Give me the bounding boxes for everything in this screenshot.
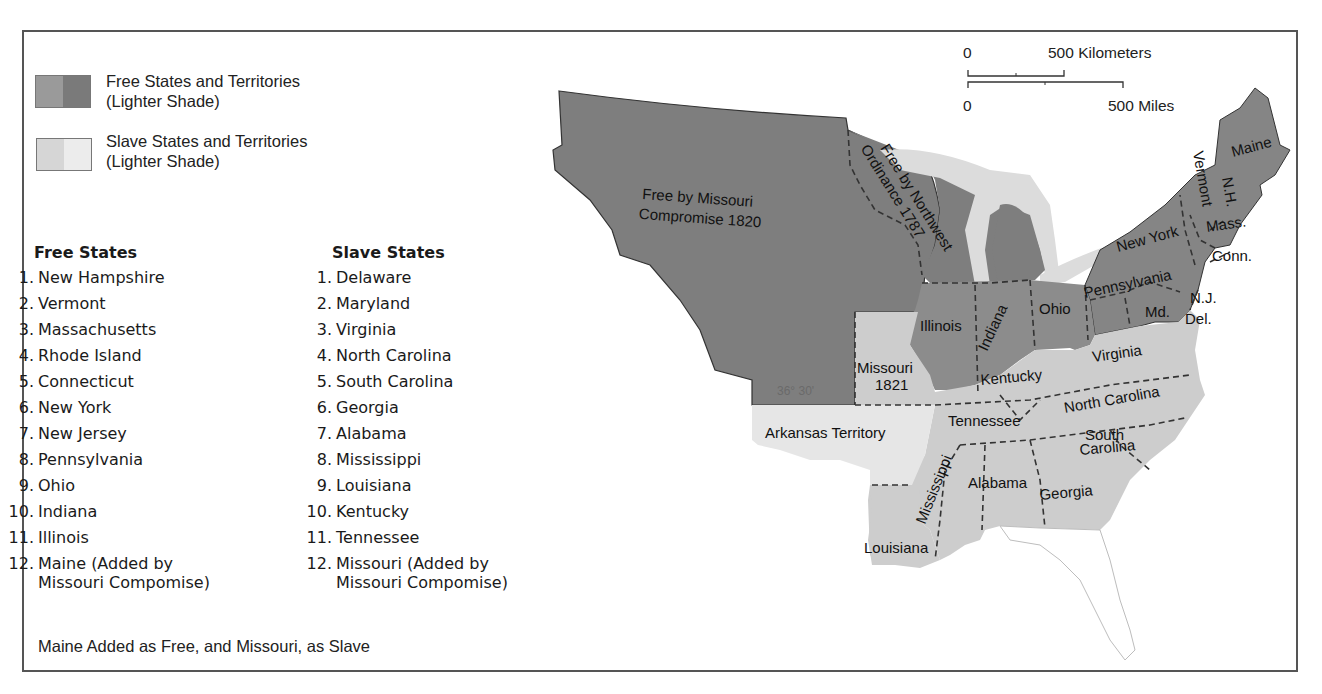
label-tennessee: Tennessee: [948, 412, 1021, 429]
label-missouri-year: 1821: [875, 376, 908, 393]
label-louisiana: Louisiana: [864, 539, 929, 556]
label-missouri: Missouri: [857, 359, 913, 376]
label-ohio: Ohio: [1039, 300, 1071, 317]
florida-outline: [1000, 526, 1135, 660]
northeast-free-states: [1085, 88, 1290, 335]
label-md: Md.: [1145, 303, 1170, 320]
label-del: Del.: [1185, 310, 1212, 327]
label-conn: Conn.: [1212, 247, 1252, 264]
label-latitude: 36° 30': [777, 384, 814, 398]
label-arkansas: Arkansas Territory: [765, 424, 886, 441]
label-illinois: Illinois: [920, 317, 962, 334]
label-alabama: Alabama: [968, 474, 1028, 491]
arkansas-territory: [752, 405, 935, 485]
us-map-1820: Free by MissouriCompromise 1820 Free by …: [0, 0, 1322, 694]
label-nj: N.J.: [1190, 289, 1217, 306]
